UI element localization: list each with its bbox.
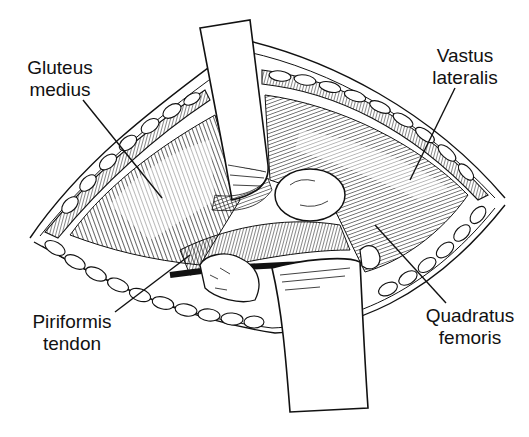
label-line: Piriformis [22,311,122,333]
femoral-head [275,169,345,221]
label-line: medius [20,79,100,101]
label-gluteus-medius: Gluteus medius [20,57,100,101]
lower-retractor [272,259,368,412]
label-quadratus-femoris: Quadratus femoris [412,305,528,349]
bone-fragment [360,246,380,269]
label-line: Quadratus [412,305,528,327]
label-line: femoris [412,327,528,349]
label-line: lateralis [420,67,510,89]
label-vastus-lateralis: Vastus lateralis [420,45,510,89]
label-piriformis-tendon: Piriformis tendon [22,311,122,355]
label-line: Vastus [420,45,510,67]
label-line: tendon [22,333,122,355]
label-line: Gluteus [20,57,100,79]
